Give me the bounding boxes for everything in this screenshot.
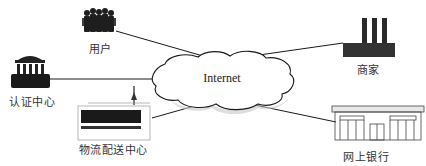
edge-merchant-internet bbox=[252, 43, 343, 56]
node-label-users: 用户 bbox=[89, 40, 112, 56]
node-label-auth: 认证中心 bbox=[9, 93, 55, 109]
node-label-merchant: 商家 bbox=[357, 61, 380, 77]
bank-icon bbox=[332, 106, 424, 140]
factory-icon bbox=[343, 18, 395, 57]
internet-label: Internet bbox=[203, 71, 240, 86]
building-icon bbox=[11, 56, 50, 88]
people-icon bbox=[82, 8, 116, 32]
warehouse-icon bbox=[78, 86, 150, 140]
node-label-bank: 网上银行 bbox=[343, 148, 389, 164]
edge-users-internet bbox=[116, 31, 203, 56]
node-label-logistics: 物流配送中心 bbox=[79, 141, 148, 157]
